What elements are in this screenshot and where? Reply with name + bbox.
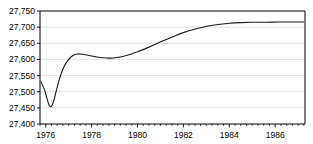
x-axis-tick-label: 1984: [220, 130, 239, 140]
chart-canvas: 27,75027,70027,65027,60027,55027,50027,4…: [0, 0, 313, 144]
data-series-group: [41, 22, 304, 107]
x-axis-tick-label: 1978: [82, 130, 101, 140]
y-axis-tick-label: 27,550: [9, 71, 35, 81]
y-axis-tick-label: 27,650: [9, 38, 35, 48]
y-axis-tick-label: 27,400: [9, 119, 35, 129]
x-axis-tick-label: 1976: [36, 130, 55, 140]
y-axis-tick-label: 27,500: [9, 87, 35, 97]
ytick-labels-group: 27,75027,70027,65027,60027,55027,50027,4…: [9, 6, 35, 129]
y-axis-tick-label: 27,700: [9, 22, 35, 32]
y-axis-tick-label: 27,450: [9, 103, 35, 113]
tick-marks-group: [37, 11, 304, 128]
gridlines-group: [40, 27, 305, 108]
x-axis-tick-label: 1980: [128, 130, 147, 140]
plot-frame-group: [40, 11, 305, 124]
x-axis-tick-label: 1982: [174, 130, 193, 140]
x-axis-tick-label: 1986: [266, 130, 285, 140]
y-axis-tick-label: 27,750: [9, 6, 35, 16]
chart-figure: 27,75027,70027,65027,60027,55027,50027,4…: [0, 0, 313, 144]
plot-frame: [40, 11, 305, 124]
data-series-line: [41, 22, 304, 107]
y-axis-tick-label: 27,600: [9, 54, 35, 64]
xtick-labels-group: 197619781980198219841986: [36, 130, 285, 140]
